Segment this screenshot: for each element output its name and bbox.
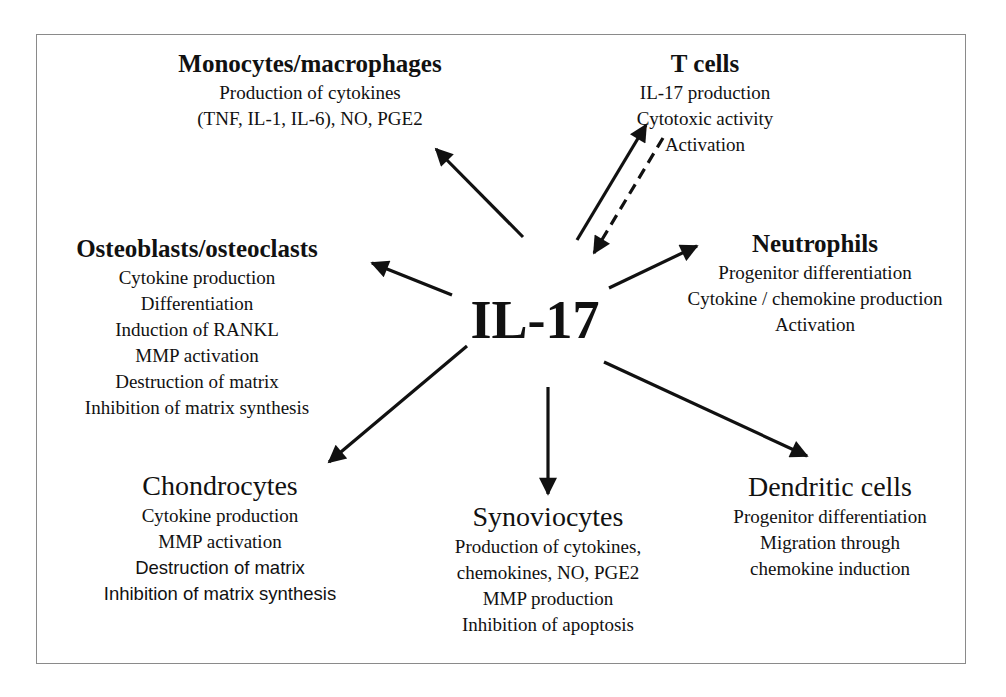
node-dendritic-cells: Dendritic cells Progenitor differentiati…	[700, 470, 960, 582]
node-line: Cytotoxic activity	[595, 106, 815, 132]
node-line: chemokines, NO, PGE2	[418, 560, 678, 586]
center-label-il17: IL-17	[455, 290, 615, 350]
arrow-to-osteoblasts	[372, 263, 452, 295]
node-line: Activation	[595, 132, 815, 158]
node-line: Inhibition of matrix synthesis	[50, 581, 390, 607]
node-line: Cytokine production	[12, 265, 382, 291]
node-line: MMP activation	[50, 529, 390, 555]
node-line: Cytokine / chemokine production	[665, 286, 965, 312]
node-line: Inhibition of matrix synthesis	[12, 395, 382, 421]
node-line: (TNF, IL-1, IL-6), NO, PGE2	[140, 106, 480, 132]
node-line: Activation	[665, 312, 965, 338]
node-title: Synoviocytes	[418, 500, 678, 534]
node-title: Monocytes/macrophages	[140, 48, 480, 80]
arrow-to-monocytes	[436, 149, 523, 237]
node-title: Dendritic cells	[700, 470, 960, 504]
node-line: Production of cytokines,	[418, 534, 678, 560]
node-osteoblasts-osteoclasts: Osteoblasts/osteoclasts Cytokine product…	[12, 233, 382, 421]
node-monocytes-macrophages: Monocytes/macrophages Production of cyto…	[140, 48, 480, 132]
node-line: Induction of RANKL	[12, 317, 382, 343]
node-line: chemokine induction	[700, 556, 960, 582]
node-line: Differentiation	[12, 291, 382, 317]
node-chondrocytes: Chondrocytes Cytokine production MMP act…	[50, 469, 390, 607]
node-line: Progenitor differentiation	[700, 504, 960, 530]
node-line: Destruction of matrix	[12, 369, 382, 395]
node-line: Destruction of matrix	[50, 555, 390, 581]
node-title: Neutrophils	[665, 228, 965, 260]
node-title: Chondrocytes	[50, 469, 390, 503]
node-synoviocytes: Synoviocytes Production of cytokines, ch…	[418, 500, 678, 638]
node-line: Progenitor differentiation	[665, 260, 965, 286]
node-t-cells: T cells IL-17 production Cytotoxic activ…	[595, 48, 815, 158]
arrow-to-dendritic	[604, 362, 807, 456]
node-line: MMP production	[418, 586, 678, 612]
node-line: Cytokine production	[50, 503, 390, 529]
node-line: Inhibition of apoptosis	[418, 612, 678, 638]
node-neutrophils: Neutrophils Progenitor differentiation C…	[665, 228, 965, 338]
node-line: Migration through	[700, 530, 960, 556]
node-line: Production of cytokines	[140, 80, 480, 106]
node-line: MMP activation	[12, 343, 382, 369]
node-line: IL-17 production	[595, 80, 815, 106]
node-title: Osteoblasts/osteoclasts	[12, 233, 382, 265]
node-title: T cells	[595, 48, 815, 80]
